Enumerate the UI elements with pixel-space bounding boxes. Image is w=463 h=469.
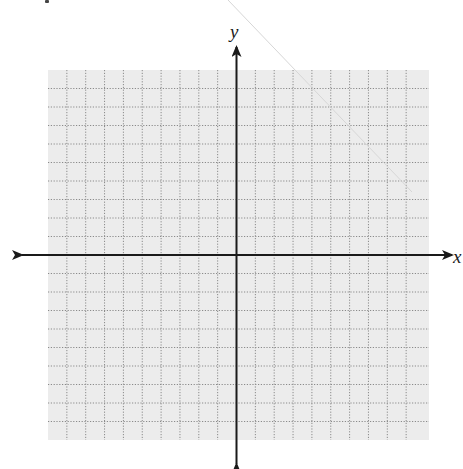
x-axis-label: x	[453, 247, 461, 266]
y-axis-label: y	[230, 22, 238, 41]
scan-artifact-mark	[45, 0, 49, 3]
coordinate-plane	[0, 0, 463, 469]
